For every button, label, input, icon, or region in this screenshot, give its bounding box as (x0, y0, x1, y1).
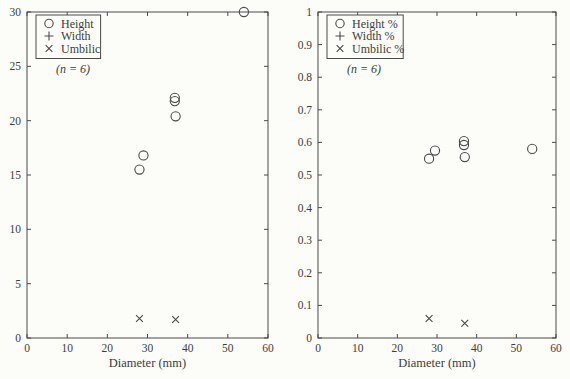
cross-marker (136, 315, 143, 322)
scatter-figure: 0102030405060051015202530Diameter (mm)He… (0, 0, 570, 379)
left-plot-xtick-label: 10 (61, 342, 73, 354)
right-plot-ytick-label: 0.4 (298, 202, 313, 214)
left-plot-ytick-label: 25 (10, 60, 22, 72)
right-plot-annotation: (n = 6) (347, 62, 381, 76)
circle-marker (528, 144, 537, 153)
circle-marker (171, 112, 180, 121)
cross-marker (461, 320, 468, 327)
right-plot-xtick-label: 10 (352, 342, 364, 354)
right-plot-ytick-label: 0.5 (298, 169, 313, 181)
left-plot-xtick-label: 0 (24, 342, 30, 354)
right-plot-ytick-label: 0.9 (298, 39, 313, 51)
right-plot-ytick-label: 0 (306, 332, 312, 344)
left-plot-ytick-label: 30 (10, 6, 22, 18)
right-plot-ytick-label: 0.3 (298, 234, 313, 246)
right-plot-series-circle (424, 136, 536, 163)
left-plot-series-cross (136, 315, 179, 323)
right-plot-xlabel: Diameter (mm) (398, 356, 475, 370)
cross-marker (172, 316, 179, 323)
left-plot-xtick-label: 40 (182, 342, 194, 354)
right-plot-xtick-label: 0 (315, 342, 321, 354)
left-plot-xtick-label: 50 (222, 342, 234, 354)
right-plot-ytick-label: 0.6 (298, 136, 313, 148)
right-plot-xtick-label: 60 (550, 342, 562, 354)
circle-marker (135, 165, 144, 174)
left-plot-ytick-label: 20 (10, 115, 22, 127)
left-plot-xtick-label: 60 (262, 342, 274, 354)
figure-canvas: 0102030405060051015202530Diameter (mm)He… (0, 0, 570, 379)
right-plot-xtick-label: 30 (431, 342, 443, 354)
left-plot-ytick-label: 15 (10, 169, 22, 181)
right-plot: 010203040506000.10.20.30.40.50.60.70.80.… (298, 6, 562, 370)
right-plot-ytick-label: 0.1 (298, 299, 313, 311)
left-plot: 0102030405060051015202530Diameter (mm)He… (10, 6, 275, 370)
left-plot-xlabel: Diameter (mm) (109, 356, 186, 370)
left-plot-ytick-label: 0 (15, 332, 21, 344)
circle-marker (139, 151, 148, 160)
right-plot-ytick-label: 0.8 (298, 71, 313, 83)
left-plot-xtick-label: 30 (142, 342, 154, 354)
right-plot-xtick-label: 20 (392, 342, 404, 354)
right-plot-series-cross (426, 315, 469, 327)
circle-marker (430, 146, 439, 155)
left-plot-legend-label: Umbilic (61, 42, 100, 56)
right-plot-xtick-label: 40 (471, 342, 483, 354)
circle-marker (424, 154, 433, 163)
right-plot-legend-label: Umbilic % (352, 42, 404, 56)
left-plot-ytick-label: 5 (15, 278, 21, 290)
left-plot-series-circle (135, 7, 249, 174)
left-plot-legend: HeightWidthUmbilic (36, 15, 101, 59)
left-plot-xtick-label: 20 (102, 342, 114, 354)
right-plot-legend: Height %Width %Umbilic % (327, 15, 404, 59)
right-plot-ytick-label: 0.2 (298, 267, 313, 279)
circle-marker (460, 152, 469, 161)
right-plot-ytick-label: 0.7 (298, 104, 313, 116)
left-plot-ytick-label: 10 (10, 223, 22, 235)
right-plot-xtick-label: 50 (511, 342, 523, 354)
right-plot-ytick-label: 1 (306, 6, 312, 18)
left-plot-annotation: (n = 6) (56, 62, 90, 76)
cross-marker (426, 315, 433, 322)
